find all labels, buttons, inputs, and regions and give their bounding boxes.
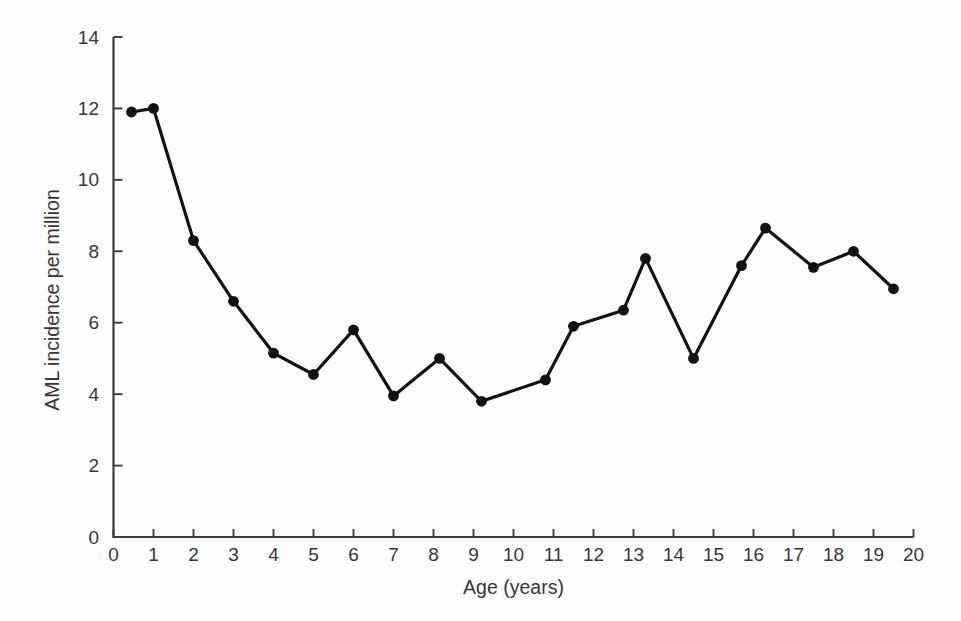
x-tick-label: 11 xyxy=(544,544,564,565)
axes-layer xyxy=(114,37,914,537)
x-tick-label: 9 xyxy=(468,544,479,565)
data-point xyxy=(540,374,551,385)
x-tick-label: 5 xyxy=(308,544,319,565)
x-tick-label: 1 xyxy=(148,544,159,565)
data-point xyxy=(760,223,771,234)
data-point xyxy=(434,353,445,364)
data-point xyxy=(388,391,399,402)
x-tick-label: 3 xyxy=(228,544,239,565)
data-point xyxy=(688,353,699,364)
x-tick-label: 10 xyxy=(503,544,524,565)
tick-layer: 0123456789101112131415161718192002468101… xyxy=(78,27,924,566)
y-tick-label: 2 xyxy=(88,455,99,476)
data-point xyxy=(126,107,137,118)
data-point xyxy=(618,305,629,316)
y-tick-label: 0 xyxy=(88,527,99,548)
x-tick-label: 0 xyxy=(108,544,119,565)
y-tick-label: 12 xyxy=(78,98,99,119)
y-tick-label: 8 xyxy=(88,241,99,262)
aml-incidence-line-chart: 0123456789101112131415161718192002468101… xyxy=(0,0,961,621)
data-series-layer xyxy=(126,103,899,407)
y-axis-title: AML incidence per million xyxy=(41,189,63,410)
y-tick-label: 4 xyxy=(88,384,99,405)
y-tick-label: 10 xyxy=(78,169,99,190)
axis-spines xyxy=(114,37,914,537)
x-tick-label: 14 xyxy=(663,544,685,565)
series-line xyxy=(132,108,894,401)
x-tick-label: 19 xyxy=(863,544,884,565)
data-point xyxy=(640,253,651,264)
x-tick-label: 18 xyxy=(823,544,844,565)
data-point xyxy=(848,246,859,257)
x-tick-label: 6 xyxy=(348,544,359,565)
data-point xyxy=(268,348,279,359)
data-point xyxy=(308,369,319,380)
data-point xyxy=(228,296,239,307)
y-tick-label: 6 xyxy=(88,312,99,333)
data-point xyxy=(888,283,899,294)
data-point xyxy=(808,262,819,273)
x-tick-label: 7 xyxy=(388,544,399,565)
x-tick-label: 4 xyxy=(268,544,279,565)
x-tick-label: 15 xyxy=(703,544,724,565)
data-point xyxy=(188,235,199,246)
x-tick-label: 13 xyxy=(623,544,644,565)
data-point xyxy=(148,103,159,114)
data-point xyxy=(568,321,579,332)
x-axis-title: Age (years) xyxy=(463,576,564,598)
x-tick-label: 20 xyxy=(903,544,924,565)
data-point xyxy=(476,396,487,407)
data-point xyxy=(348,324,359,335)
x-tick-label: 12 xyxy=(583,544,604,565)
x-tick-label: 2 xyxy=(188,544,199,565)
x-tick-label: 8 xyxy=(428,544,439,565)
data-point xyxy=(736,260,747,271)
figure-page: 0123456789101112131415161718192002468101… xyxy=(0,0,961,621)
x-tick-label: 17 xyxy=(783,544,804,565)
x-tick-label: 16 xyxy=(743,544,764,565)
y-tick-label: 14 xyxy=(78,27,100,48)
